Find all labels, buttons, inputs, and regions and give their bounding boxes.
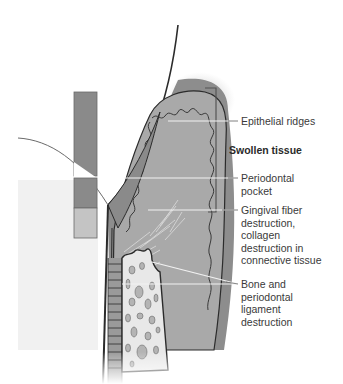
label-gingival-fiber-destruction: Gingival fiber destruction, collagen des… [241,204,322,267]
label-gingival-line1: Gingival fiber [241,204,322,217]
periodontal-probe [74,92,97,238]
label-gingival-line4: destruction in [241,242,322,255]
label-bone-line2: periodontal [241,291,293,304]
label-bone-ligament-destruction: Bone and periodontal ligament destructio… [241,278,293,328]
label-bone-line1: Bone and [241,278,293,291]
label-periodontal-pocket: Periodontal pocket [241,172,294,197]
label-gingival-line2: destruction, [241,217,322,230]
label-periodontal-pocket-line2: pocket [241,185,294,198]
label-gingival-line3: collagen [241,229,322,242]
label-periodontal-pocket-line1: Periodontal [241,172,294,185]
label-swollen-tissue: Swollen tissue [229,144,302,157]
label-gingival-line5: connective tissue [241,254,322,267]
label-bone-line4: destruction [241,316,293,329]
bottom-fade [90,352,250,384]
label-bone-line3: ligament [241,303,293,316]
label-epithelial-ridges: Epithelial ridges [241,115,315,128]
periodontitis-diagram: Epithelial ridges Swollen tissue Periodo… [0,0,343,384]
